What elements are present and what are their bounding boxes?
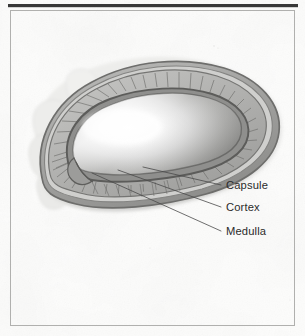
figure-root: Capsule Cortex Medulla [0, 0, 305, 336]
label-capsule: Capsule [226, 179, 268, 191]
label-cortex: Cortex [226, 201, 260, 213]
medulla-highlight [82, 109, 162, 145]
lymph-node-diagram: Capsule Cortex Medulla [0, 0, 305, 336]
label-medulla: Medulla [226, 225, 267, 237]
figure-top-rule [8, 4, 298, 7]
